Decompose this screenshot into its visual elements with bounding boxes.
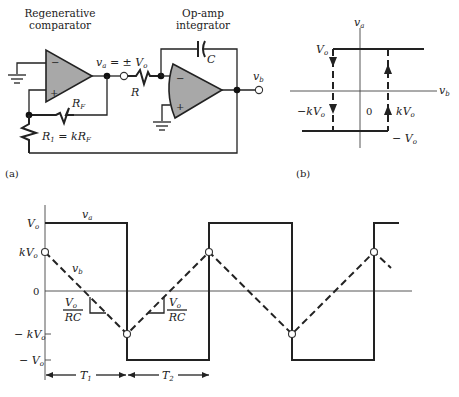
- down-arrow-icon: [329, 57, 337, 67]
- va-wave-label: va: [82, 208, 92, 222]
- integrator-output-node: [234, 87, 241, 94]
- slope-label-falling: Vo RC: [63, 296, 83, 324]
- svg-text:Vo: Vo: [169, 296, 181, 310]
- svg-text:T1: T1: [80, 369, 92, 383]
- comparator-title-line2: comparator: [29, 19, 92, 31]
- ytick-vo: Vo: [27, 217, 39, 231]
- origin-label: 0: [366, 106, 372, 117]
- vb-peak-marker: [42, 249, 49, 256]
- vb-triangle-wave: [45, 252, 391, 334]
- panel-a-label: (a): [5, 168, 19, 179]
- r-resistor-icon: [128, 70, 161, 84]
- vb-label: vb: [253, 70, 264, 84]
- svg-text:T2: T2: [162, 369, 174, 383]
- oscillator-figure: Regenerative comparator Op-amp integrato…: [0, 0, 459, 397]
- panel-b-label: (b): [296, 168, 310, 179]
- ground-icon: [8, 75, 26, 83]
- svg-text:RC: RC: [64, 311, 82, 324]
- r1-label: R1 = kRF: [41, 130, 92, 144]
- va-axis-label: va: [354, 16, 364, 30]
- ytick-neg-kvo: − kVo: [14, 328, 46, 342]
- c-label: C: [207, 53, 216, 66]
- hysteresis-plot: va vb Vo − Vo −kVo kVo 0 (b): [290, 16, 450, 179]
- comparator-minus-wire: [17, 63, 46, 74]
- svg-text:Vo: Vo: [65, 296, 77, 310]
- comparator-title-line1: Regenerative: [24, 7, 95, 19]
- integrator-title-line2: integrator: [176, 19, 231, 31]
- top-level-label: Vo: [316, 43, 328, 57]
- r1-resistor-icon: [22, 115, 36, 153]
- vb-trough-marker: [289, 331, 296, 338]
- ytick-zero: 0: [33, 286, 39, 297]
- bottom-level-label: − Vo: [392, 132, 417, 146]
- t2-dimension: T2: [128, 369, 209, 383]
- right-threshold-label: kVo: [396, 105, 415, 119]
- vb-peak-marker: [371, 249, 378, 256]
- waveform-plot: Vo kVo 0 − kVo − Vo va vb Vo RC Vo RC: [14, 205, 412, 383]
- svg-text:RC: RC: [168, 311, 186, 324]
- t1-dimension: T1: [46, 369, 126, 383]
- up-arrow-icon: [384, 105, 392, 115]
- rf-label: RF: [71, 97, 86, 111]
- va-terminal: [120, 72, 127, 79]
- integrator-plus-wire: [162, 105, 170, 121]
- down-arrow-icon: [329, 104, 337, 114]
- vb-trough-marker: [124, 331, 131, 338]
- up-arrow-icon: [384, 64, 392, 74]
- vb-terminal: [255, 86, 262, 93]
- comparator-plus: +: [50, 87, 58, 98]
- slope-label-rising: Vo RC: [167, 296, 187, 324]
- vb-peak-marker: [206, 249, 213, 256]
- integrator-minus: −: [176, 73, 184, 84]
- rf-resistor-icon: [29, 108, 74, 123]
- left-threshold-label: −kVo: [297, 105, 325, 119]
- comparator-plus-wire: [29, 90, 46, 115]
- r-label: R: [130, 86, 139, 99]
- va-square-wave: [45, 223, 399, 360]
- comparator-minus: −: [51, 57, 59, 68]
- ytick-kvo: kVo: [19, 246, 38, 260]
- vb-wave-label: vb: [72, 262, 83, 276]
- integrator-title-line1: Op-amp: [182, 7, 224, 19]
- va-label: va = ± Vo: [96, 56, 148, 70]
- vb-axis-label: vb: [439, 84, 450, 98]
- circuit-diagram: Regenerative comparator Op-amp integrato…: [5, 7, 264, 179]
- ground-icon: [153, 122, 171, 130]
- ytick-neg-vo: − Vo: [19, 354, 44, 368]
- integrator-plus: +: [176, 101, 184, 112]
